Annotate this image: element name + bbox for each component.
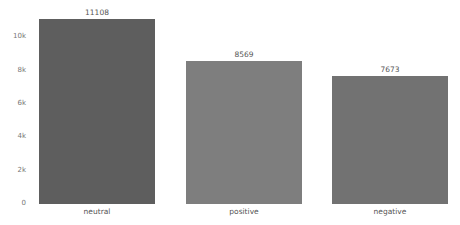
bar-neutral[interactable] <box>39 19 155 204</box>
y-tick-label: 10k <box>0 32 26 40</box>
bar-value-label: 11108 <box>39 8 155 17</box>
bar-chart: 02k4k6k8k10k 11108neutral8569positive767… <box>0 0 460 225</box>
bar-value-label: 7673 <box>332 65 448 74</box>
y-tick-label: 8k <box>0 66 26 74</box>
x-tick-label: neutral <box>39 207 155 216</box>
bar-value-label: 8569 <box>186 50 302 59</box>
y-tick-label: 4k <box>0 132 26 140</box>
x-tick-label: negative <box>332 207 448 216</box>
y-tick-label: 6k <box>0 99 26 107</box>
y-tick-label: 0 <box>0 199 26 207</box>
x-tick-label: positive <box>186 207 302 216</box>
y-tick-label: 2k <box>0 166 26 174</box>
bar-positive[interactable] <box>186 61 302 204</box>
bar-negative[interactable] <box>332 76 448 204</box>
